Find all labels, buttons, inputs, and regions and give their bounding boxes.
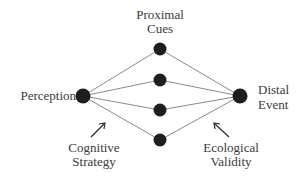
- edge-cue-2-to-distal-event: [160, 80, 240, 96]
- edge-perception-to-cue-1: [83, 49, 160, 96]
- edges: [83, 49, 240, 140]
- arrow-ecological-validity: [214, 123, 229, 137]
- label-ecological-line1: Ecological: [203, 140, 259, 155]
- node-cue-1: [154, 43, 167, 56]
- node-cue-2: [154, 74, 167, 87]
- label-cognitive-line1: Cognitive: [68, 140, 120, 155]
- label-distal-line2: Event: [258, 97, 289, 112]
- label-perception: Perception: [20, 88, 76, 103]
- lens-model-diagram: Proximal Cues Perception Distal Event Co…: [0, 0, 304, 181]
- arrow-cognitive-strategy: [91, 123, 105, 137]
- label-distal-line1: Distal: [258, 82, 289, 97]
- label-proximal-line2: Cues: [147, 21, 173, 36]
- node-cue-4: [154, 134, 167, 147]
- edge-cue-1-to-distal-event: [160, 49, 240, 96]
- node-cue-3: [154, 104, 167, 117]
- label-proximal-line1: Proximal: [136, 7, 184, 22]
- label-ecological-line2: Validity: [210, 154, 252, 169]
- node-perception: [76, 89, 91, 104]
- edge-perception-to-cue-2: [83, 80, 160, 96]
- node-distal-event: [233, 89, 248, 104]
- label-cognitive-line2: Strategy: [72, 154, 116, 169]
